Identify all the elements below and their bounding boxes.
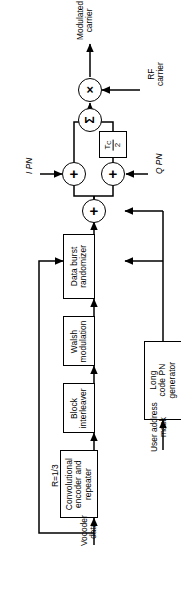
- block-data-burst-randomizer: Data burst randomizer: [63, 234, 95, 299]
- block-data-burst-randomizer-label: Data burst randomizer: [70, 245, 89, 288]
- label-code-rate: R=1/3: [51, 464, 60, 487]
- label-user-address-mask: User address mask: [150, 402, 169, 452]
- label-vocoder-data: Vocoder data: [80, 515, 99, 546]
- block-convolutional-encoder-repeater-label: Convolutional encoder and repeater: [65, 458, 93, 510]
- block-convolutional-encoder-repeater: Convolutional encoder and repeater: [60, 450, 98, 518]
- q-adder-symbol: +: [109, 166, 118, 181]
- block-diagram-canvas: × Σ + + + TC 2 Data burst randomizer Wal…: [0, 0, 181, 590]
- wire-split-bus: [74, 186, 113, 196]
- label-rf-carrier: RF carrier: [147, 62, 166, 86]
- tc-half-delay-box: TC 2: [99, 131, 127, 158]
- rf-mixer-node: ×: [78, 78, 102, 102]
- block-walsh-modulation: Walsh modulation: [63, 316, 95, 366]
- i-adder-symbol: +: [70, 166, 79, 181]
- q-adder-node: +: [101, 162, 125, 186]
- label-modulated-carrier: Modulated carrier: [76, 1, 95, 40]
- summer-node: Σ: [78, 108, 102, 132]
- block-long-code-pn-generator-label: Long code PN generator: [149, 362, 177, 399]
- summer-symbol: Σ: [84, 116, 96, 123]
- block-interleaver: Block interleaver: [63, 383, 95, 433]
- i-adder-node: +: [62, 162, 86, 186]
- block-interleaver-label: Block interleaver: [70, 388, 89, 428]
- rf-mixer-symbol: ×: [86, 84, 93, 96]
- long-code-adder-node: +: [82, 199, 106, 223]
- long-code-adder-symbol: +: [90, 203, 99, 218]
- tc-half-denominator: 2: [113, 141, 122, 147]
- block-walsh-modulation-label: Walsh modulation: [70, 320, 89, 362]
- label-q-pn: Q PN: [155, 154, 164, 174]
- tc-half-fraction: TC 2: [104, 139, 122, 150]
- label-i-pn: I PN: [25, 158, 34, 174]
